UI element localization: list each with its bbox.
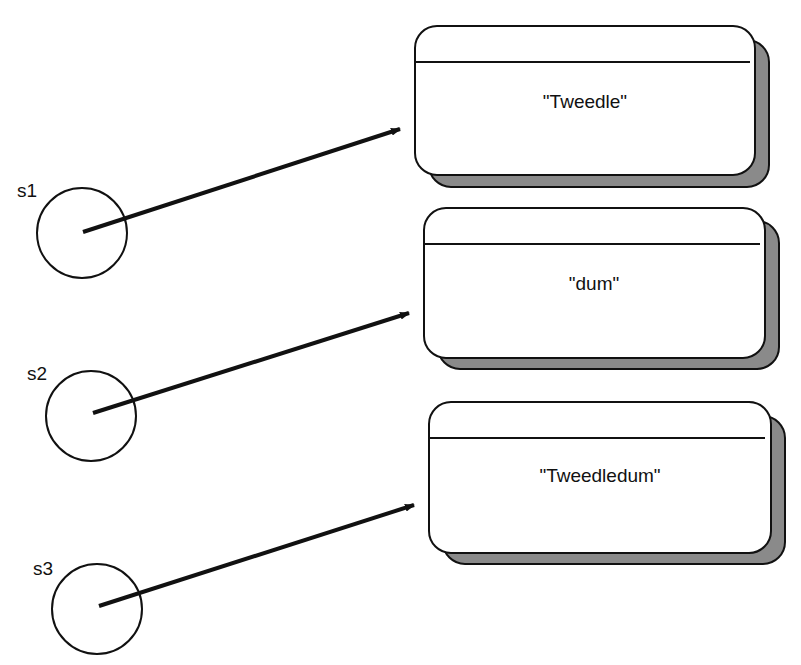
object-value: "Tweedledum" [539, 465, 660, 486]
variable-circle [37, 188, 127, 278]
reference-arrow [93, 313, 409, 413]
object-value: "dum" [569, 273, 619, 294]
reference-arrow [83, 129, 400, 232]
string-object-2: "dum" [424, 208, 779, 369]
variable-label: s1 [17, 180, 37, 201]
reference-arrow [99, 505, 414, 606]
string-object-3: "Tweedledum" [429, 402, 785, 564]
variable-s3: s3 [33, 505, 414, 654]
variable-label: s3 [33, 558, 53, 579]
variable-circle [52, 564, 142, 654]
variable-label: s2 [27, 363, 47, 384]
reference-diagram: "Tweedle" "dum" "Tweedledum" s1 s2 s3 [0, 0, 801, 665]
string-object-1: "Tweedle" [415, 26, 769, 187]
object-value: "Tweedle" [543, 91, 627, 112]
variable-s1: s1 [17, 129, 400, 278]
variable-s2: s2 [27, 313, 409, 461]
variable-circle [46, 371, 136, 461]
